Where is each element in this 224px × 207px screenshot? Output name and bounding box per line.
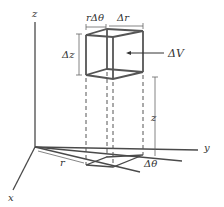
x-axis-label: x [8, 192, 14, 203]
x-axis [13, 147, 35, 190]
box-top-face [86, 29, 143, 37]
radial-line-2 [35, 147, 140, 172]
arrow-head-icon [126, 51, 131, 55]
cylindrical-volume-element-diagram: z x y rΔθ Δr Δz ΔV z r Δθ [0, 0, 224, 207]
dtheta-label: Δθ [143, 158, 157, 169]
r-label: r [60, 157, 66, 168]
z-axis-label: z [31, 8, 38, 19]
y-axis-label: y [203, 142, 210, 153]
dz-label: Δz [61, 49, 75, 60]
dr-label: Δr [116, 12, 130, 23]
z-height-label: z [150, 112, 157, 123]
dv-label: ΔV [167, 47, 185, 60]
box-bottom-face [86, 69, 143, 79]
r-dtheta-label: rΔθ [86, 12, 104, 23]
